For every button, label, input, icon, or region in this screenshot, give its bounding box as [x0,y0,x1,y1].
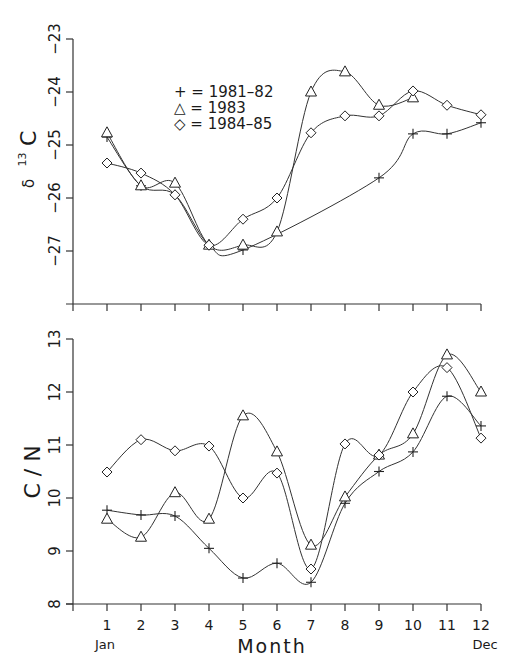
triangle-marker [136,531,147,541]
triangle-marker [238,410,249,420]
y-tick-label: −25 [46,129,64,161]
triangle-marker [204,513,215,523]
x-tick-label: 12 [472,617,490,633]
diamond-marker [136,168,146,178]
delta13c-series [107,70,481,256]
y-tick-label: 9 [46,546,64,556]
triangle-marker [102,513,113,523]
triangle-marker [102,127,113,137]
series-curve-1984-85 [107,366,481,569]
y-tick-label: 10 [46,488,64,507]
diamond-marker [476,433,486,443]
triangle-marker [238,239,249,249]
plus-marker [374,173,384,183]
element-label: C [16,131,41,146]
legend-item-1984-85: ◇ = 1984–85 [174,115,272,133]
delta13c-y-axis-label: δ 13 C [7,131,41,188]
svg-text:δ 13 C: δ 13 C [7,131,41,188]
y-tick-label: −27 [46,235,64,267]
diamond-marker [238,493,248,503]
delta-symbol: δ [20,179,38,188]
triangle-marker [272,226,283,236]
y-tick-label: −24 [46,76,64,108]
triangle-marker [408,428,419,438]
cn-ratio-panel: 8910111213123456789101112 C / N Month Ja… [20,329,498,657]
x-tick-label: 6 [273,617,282,633]
isotope-superscript: 13 [16,152,29,166]
x-tick-label: 2 [137,617,146,633]
plus-marker [136,510,146,520]
diamond-marker [374,111,384,121]
delta13c-panel: −23−24−25−26−27 δ 13 C + = 1981–82 △ = 1… [7,23,486,311]
triangle-marker [170,177,181,187]
x-start-label-jan: Jan [94,637,115,652]
diamond-marker [340,111,350,121]
y-tick-label: 13 [46,329,64,348]
diamond-marker [170,446,180,456]
diamond-marker [442,100,452,110]
series-curve-1981-82 [107,123,481,256]
y-tick-label: −26 [46,182,64,214]
x-axis-label: Month [237,635,307,657]
x-tick-label: 7 [307,617,316,633]
y-tick-label: −23 [46,23,64,55]
legend: + = 1981–82 △ = 1983 ◇ = 1984–85 [174,83,273,133]
y-tick-label: 11 [46,435,64,454]
series-curve-1981-82 [107,396,481,585]
triangle-marker [374,99,385,109]
x-tick-label: 3 [171,617,180,633]
diamond-marker [136,435,146,445]
triangle-marker [306,86,317,96]
diamond-marker [408,387,418,397]
triangle-marker [272,446,283,456]
diamond-marker [476,110,486,120]
cn-ratio-axes: 8910111213123456789101112 [46,329,490,633]
diamond-marker [102,158,112,168]
x-tick-label: 4 [205,617,214,633]
x-tick-label: 1 [103,617,112,633]
x-tick-label: 8 [341,617,350,633]
cn-ratio-y-axis-label: C / N [20,445,45,498]
plus-marker [170,511,180,521]
plus-marker [374,467,384,477]
plus-marker [272,558,282,568]
x-tick-label: 5 [239,617,248,633]
cn-ratio-series [107,354,481,584]
x-end-label-dec: Dec [472,637,497,652]
plus-marker [238,573,248,583]
plus-marker [442,391,452,401]
y-tick-label: 12 [46,382,64,401]
delta13c-axes: −23−24−25−26−27 [46,23,481,311]
x-tick-label: 9 [375,617,384,633]
diamond-marker [272,468,282,478]
diamond-marker [408,86,418,96]
figure: −23−24−25−26−27 δ 13 C + = 1981–82 △ = 1… [0,0,509,666]
x-tick-label: 10 [404,617,422,633]
delta13c-markers [102,66,487,255]
triangle-marker [170,487,181,497]
x-tick-label: 11 [438,617,456,633]
cn-ratio-markers [102,349,487,587]
series-curve-1984-85 [107,91,481,246]
series-curve-1983 [107,354,481,546]
triangle-marker [476,386,487,396]
plus-marker [442,129,452,139]
y-tick-label: 8 [46,599,64,609]
